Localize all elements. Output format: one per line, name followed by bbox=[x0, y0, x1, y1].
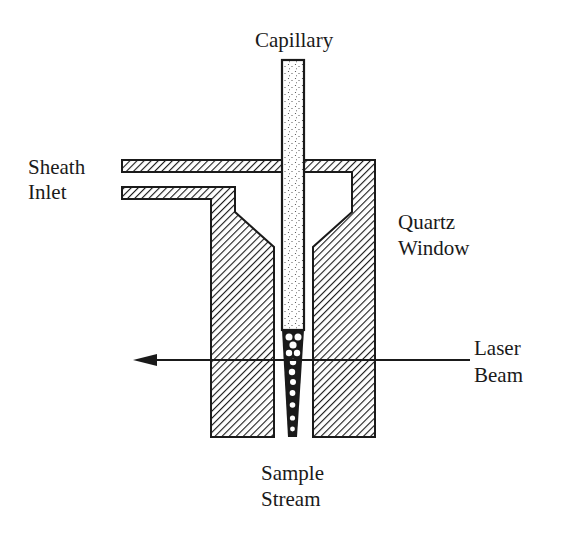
sheath-inlet-label-line1: Sheath bbox=[28, 155, 85, 179]
left-window-block bbox=[122, 187, 274, 437]
sample-stream-label-line2: Stream bbox=[261, 487, 320, 511]
laser-beam-label-line1: Laser bbox=[474, 336, 521, 360]
right-window-block bbox=[304, 160, 375, 437]
laser-beam-label-line2: Beam bbox=[474, 363, 523, 387]
capillary-tube bbox=[282, 60, 304, 330]
sample-stream-label-line1: Sample bbox=[261, 461, 324, 485]
capillary-label: Capillary bbox=[255, 28, 333, 52]
sheath-inlet-label-line2: Inlet bbox=[28, 180, 66, 204]
quartz-window-label-line2: Window bbox=[398, 236, 469, 260]
flow-cell-diagram bbox=[0, 0, 563, 541]
sample-stream bbox=[282, 330, 304, 437]
quartz-window-label-line1: Quartz bbox=[398, 210, 455, 234]
sheath-inlet-top-tube bbox=[122, 160, 282, 172]
